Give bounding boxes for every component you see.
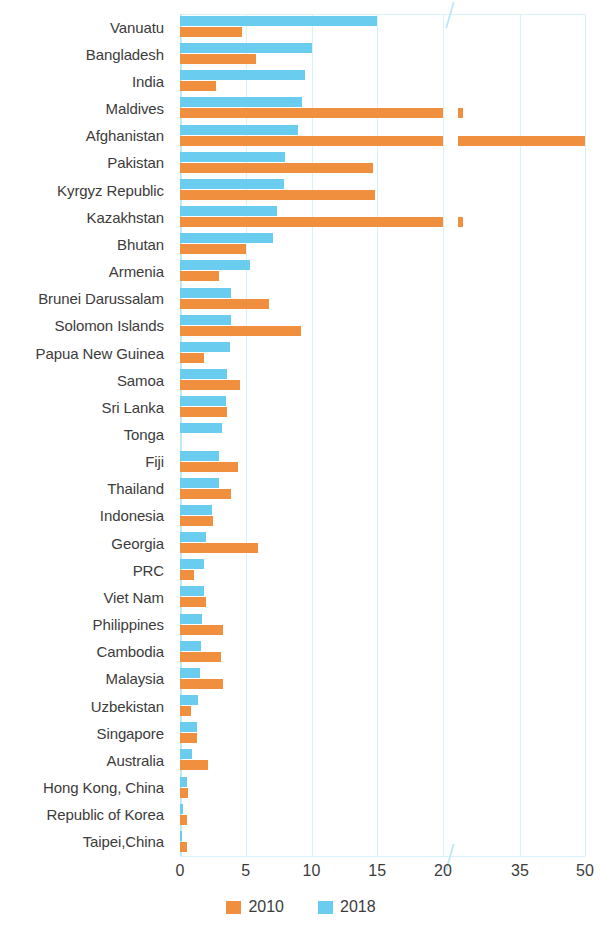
category-label: Malaysia <box>106 670 164 687</box>
bar-2010 <box>180 136 443 146</box>
bar-2010 <box>180 733 197 743</box>
bar-2018 <box>180 288 231 298</box>
bar-2018 <box>180 559 204 569</box>
chart-legend: 20102018 <box>0 898 602 916</box>
bar-row <box>180 747 585 774</box>
category-label: Kazakhstan <box>87 209 164 226</box>
category-label: Singapore <box>97 725 165 742</box>
bar-row <box>180 530 585 557</box>
bar-2010 <box>180 489 231 499</box>
x-tick-label: 15 <box>368 862 386 880</box>
bar-2010 <box>180 788 188 798</box>
bar-row <box>180 421 585 448</box>
bar-2010 <box>180 516 213 526</box>
bar-2010-overflow <box>458 108 463 118</box>
bar-row <box>180 693 585 720</box>
bar-2018 <box>180 722 197 732</box>
bar-2018 <box>180 532 206 542</box>
category-label: Georgia <box>111 535 164 552</box>
category-label: Bhutan <box>117 236 164 253</box>
bar-2018 <box>180 206 277 216</box>
category-label: Vanuatu <box>110 19 164 36</box>
bar-rows <box>180 14 585 856</box>
category-label: Maldives <box>106 100 164 117</box>
bar-2010 <box>180 217 443 227</box>
bar-row <box>180 584 585 611</box>
category-label: Armenia <box>109 263 164 280</box>
bar-2010 <box>180 652 221 662</box>
bar-row <box>180 666 585 693</box>
bar-2018 <box>180 804 183 814</box>
bar-2010 <box>180 679 223 689</box>
bar-2010 <box>180 462 238 472</box>
bar-2018 <box>180 478 219 488</box>
bar-row <box>180 829 585 856</box>
bar-2018 <box>180 233 273 243</box>
legend-item[interactable]: 2010 <box>226 898 284 916</box>
x-tick-label: 50 <box>576 862 594 880</box>
bar-2018 <box>180 97 302 107</box>
category-label: Philippines <box>93 616 164 633</box>
category-label: Afghanistan <box>86 127 164 144</box>
bar-2010 <box>180 842 187 852</box>
category-label: India <box>132 73 164 90</box>
category-label: PRC <box>133 562 164 579</box>
bar-row <box>180 14 585 41</box>
bar-2010 <box>180 108 443 118</box>
category-label: Samoa <box>117 372 164 389</box>
bar-2018 <box>180 396 226 406</box>
bar-row <box>180 449 585 476</box>
bar-2010 <box>180 27 242 37</box>
bar-row <box>180 313 585 340</box>
bar-row <box>180 639 585 666</box>
bar-2010 <box>180 570 194 580</box>
x-tick-label: 35 <box>511 862 529 880</box>
bar-row <box>180 802 585 829</box>
bar-2018 <box>180 668 200 678</box>
x-tick-label: 10 <box>303 862 321 880</box>
bar-row <box>180 231 585 258</box>
category-label: Australia <box>107 752 164 769</box>
bar-2010 <box>180 815 187 825</box>
bar-2010-overflow <box>458 136 585 146</box>
category-label: Tonga <box>124 426 164 443</box>
bar-2010 <box>180 625 223 635</box>
category-label: Viet Nam <box>103 589 164 606</box>
category-label: Kyrgyz Republic <box>57 182 164 199</box>
bar-2018 <box>180 152 285 162</box>
bar-row <box>180 557 585 584</box>
category-label: Thailand <box>107 480 164 497</box>
bar-row <box>180 775 585 802</box>
gridline-50 <box>585 14 586 856</box>
bar-row <box>180 204 585 231</box>
x-tick-label: 20 <box>434 862 452 880</box>
bar-row <box>180 68 585 95</box>
bar-2018 <box>180 423 222 433</box>
bar-2018 <box>180 695 198 705</box>
x-tick-label: 0 <box>176 862 185 880</box>
legend-item[interactable]: 2018 <box>318 898 376 916</box>
legend-swatch-icon <box>226 901 241 914</box>
bar-2018 <box>180 451 219 461</box>
bar-2018 <box>180 749 192 759</box>
bar-2018 <box>180 505 212 515</box>
bar-2010 <box>180 244 246 254</box>
bar-row <box>180 258 585 285</box>
bar-2010 <box>180 760 208 770</box>
bar-row <box>180 476 585 503</box>
axis-break-gap <box>444 15 458 855</box>
legend-label: 2018 <box>340 898 376 916</box>
bar-chart: VanuatuBangladeshIndiaMaldivesAfghanista… <box>0 0 602 934</box>
bar-2018 <box>180 777 187 787</box>
category-label: Brunei Darussalam <box>38 290 164 307</box>
bar-row <box>180 150 585 177</box>
bar-2010 <box>180 299 269 309</box>
bar-2018 <box>180 614 202 624</box>
bar-row <box>180 41 585 68</box>
bar-2010 <box>180 380 240 390</box>
category-label: Solomon Islands <box>55 317 164 334</box>
bar-2018 <box>180 831 182 841</box>
category-label: Papua New Guinea <box>36 345 165 362</box>
bar-row <box>180 340 585 367</box>
category-axis: VanuatuBangladeshIndiaMaldivesAfghanista… <box>0 14 172 856</box>
